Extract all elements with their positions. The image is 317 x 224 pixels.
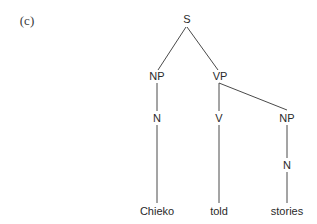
branch-s-vp	[187, 27, 218, 70]
leaf-chieko: Chieko	[140, 206, 174, 217]
node-n-object: N	[283, 160, 291, 171]
leaf-told: told	[210, 206, 228, 217]
panel-label: (c)	[20, 14, 34, 27]
node-np-subject: NP	[149, 71, 164, 82]
node-vp: VP	[213, 71, 228, 82]
node-n-subject: N	[153, 113, 161, 124]
branch-vp-np-object	[219, 83, 287, 110]
node-v: V	[215, 113, 222, 124]
syntax-tree-diagram: (c) S NP VP N V NP N Chieko told stories	[0, 0, 317, 224]
node-s: S	[183, 14, 190, 25]
branch-s-np	[158, 27, 186, 70]
node-np-object: NP	[279, 113, 294, 124]
leaf-stories: stories	[271, 206, 303, 217]
